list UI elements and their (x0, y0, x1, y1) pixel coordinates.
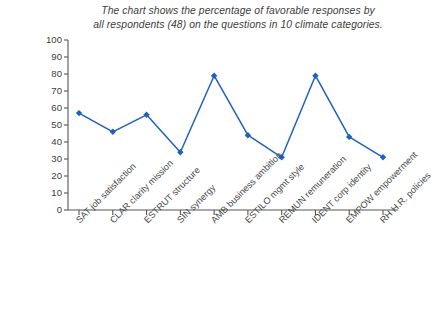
y-axis-tick-label: 100 (36, 35, 62, 45)
y-axis-tick-label: 80 (36, 69, 62, 79)
data-point-marker (312, 73, 318, 79)
y-axis-tick-label: 50 (36, 120, 62, 130)
data-point-marker (211, 73, 217, 79)
data-point-marker (76, 110, 82, 116)
data-point-marker (380, 154, 386, 160)
y-axis-tick-label: 10 (36, 188, 62, 198)
data-point-marker (110, 129, 116, 135)
y-axis-tick-label: 0 (36, 205, 62, 215)
y-axis-tick-label: 90 (36, 52, 62, 62)
y-axis-tick-label: 30 (36, 154, 62, 164)
y-axis-tick-label: 40 (36, 137, 62, 147)
data-point-marker (346, 134, 352, 140)
data-series-line (79, 76, 383, 158)
y-axis-tick-label: 70 (36, 86, 62, 96)
y-axis-tick-label: 20 (36, 171, 62, 181)
y-axis-tick-label: 60 (36, 103, 62, 113)
